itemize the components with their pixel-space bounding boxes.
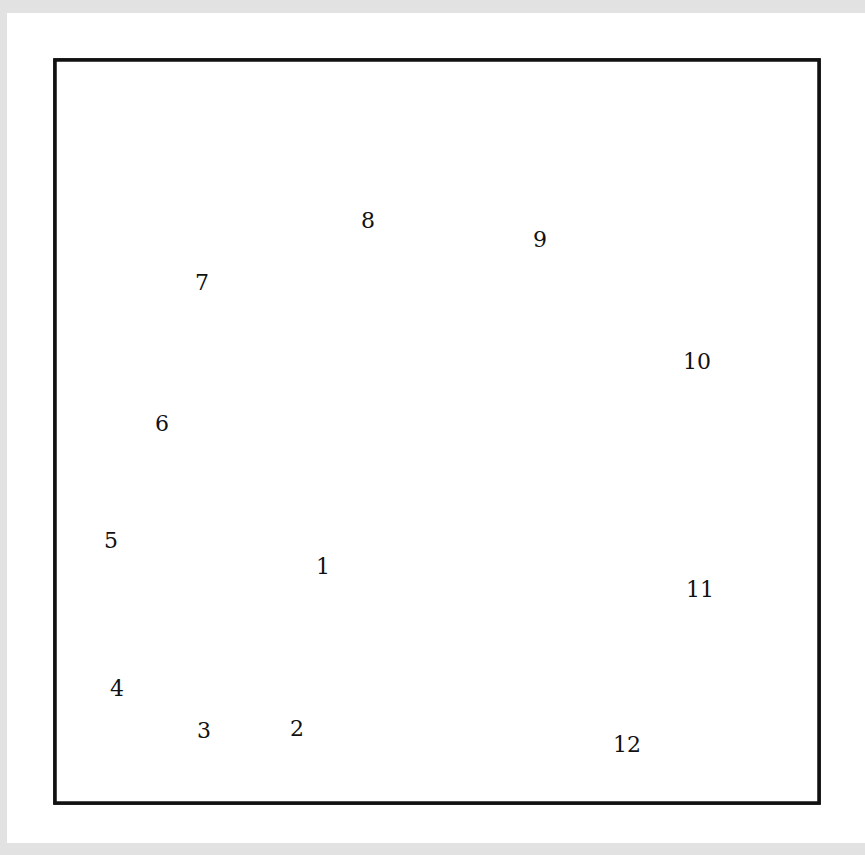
block-border [55, 60, 819, 803]
piece-number-7: 7 [195, 270, 209, 295]
piece-number-12: 12 [613, 732, 641, 757]
piece-number-10: 10 [683, 349, 711, 374]
piece-number-2: 2 [290, 716, 304, 741]
piece-number-11: 11 [686, 577, 714, 602]
piece-number-5: 5 [104, 528, 118, 553]
piece-number-6: 6 [155, 411, 169, 436]
piece-number-4: 4 [110, 676, 124, 701]
piece-number-3: 3 [197, 718, 211, 743]
piece-number-8: 8 [361, 208, 375, 233]
quilt-block-diagram: 123456789101112 [0, 0, 865, 855]
piece-number-9: 9 [533, 227, 547, 252]
piece-number-1: 1 [316, 554, 330, 579]
seam-lines [55, 60, 819, 803]
